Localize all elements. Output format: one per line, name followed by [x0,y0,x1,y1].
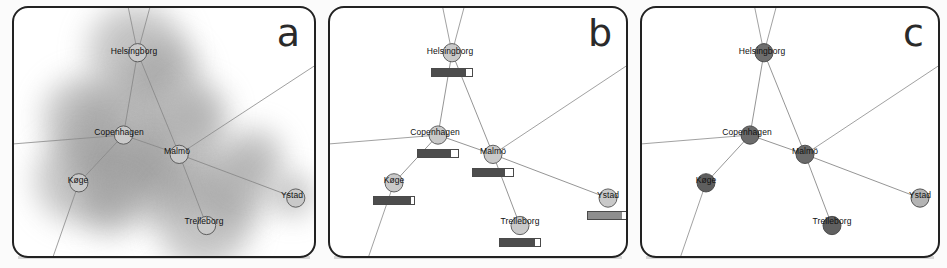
node-label-trelleborg: Trelleborg [813,216,852,226]
node-label-ystad: Ystad [597,190,619,200]
gauge-malmo [472,168,514,177]
gauge-koge [373,196,415,205]
panel-a[interactable]: HelsingborgCopenhagenMalmöKøgeTrelleborg… [12,6,316,258]
graph-edge [764,53,805,155]
node-label-koge: Køge [696,175,717,185]
gauge-ystad [587,211,628,220]
node-label-ystad: Ystad [281,190,303,200]
node-label-trelleborg: Trelleborg [185,216,224,226]
graph-edge [138,53,180,155]
figure-root: HelsingborgCopenhagenMalmöKøgeTrelleborg… [0,0,947,268]
node-label-copenhagen: Copenhagen [94,127,144,137]
panel-c[interactable]: HelsingborgCopenhagenMalmöKøgeTrelleborg… [640,6,940,258]
node-label-malmo: Malmö [792,146,818,156]
node-label-ystad: Ystad [909,190,931,200]
graph-edge-open [493,61,626,155]
node-label-malmo: Malmö [480,146,506,156]
node-label-koge: Køge [384,175,405,185]
network-graph-a [14,8,314,256]
gauge-fill-trelleborg [500,239,535,246]
panel-b[interactable]: HelsingborgCopenhagenMalmöKøgeTrelleborg… [328,6,628,258]
gauge-fill-copenhagen [418,150,451,157]
graph-edge [179,154,296,198]
graph-edge [750,53,764,135]
gauge-copenhagen [417,149,459,158]
gauge-fill-ystad [588,212,622,219]
node-label-malmo: Malmö [164,146,190,156]
panel-letter-b: b [588,14,612,52]
graph-edge [493,154,520,225]
graph-edge [123,53,137,135]
gauge-fill-koge [374,197,411,204]
node-label-helsingborg: Helsingborg [111,46,157,56]
node-label-copenhagen: Copenhagen [722,127,772,137]
panel-letter-a: a [277,14,300,52]
graph-edge-open [805,61,938,155]
node-label-trelleborg: Trelleborg [501,216,540,226]
node-label-koge: Køge [68,175,89,185]
gauge-fill-helsingborg [432,69,466,76]
panel-letter-c: c [903,14,924,52]
graph-edge-open [179,61,314,155]
gauge-trelleborg [499,238,541,247]
graph-edge-open [50,183,78,256]
graph-edge [805,154,920,198]
graph-edge-open [678,183,706,256]
graph-edge [805,154,832,225]
graph-edge [438,53,452,135]
network-graph-c [642,8,938,256]
graph-edge [179,154,206,225]
network-graph-b [330,8,626,256]
graph-edge-open [366,183,394,256]
gauge-fill-malmo [473,169,505,176]
node-label-helsingborg: Helsingborg [427,46,473,56]
gauge-helsingborg [431,68,473,77]
node-label-copenhagen: Copenhagen [410,127,460,137]
node-label-helsingborg: Helsingborg [739,46,785,56]
